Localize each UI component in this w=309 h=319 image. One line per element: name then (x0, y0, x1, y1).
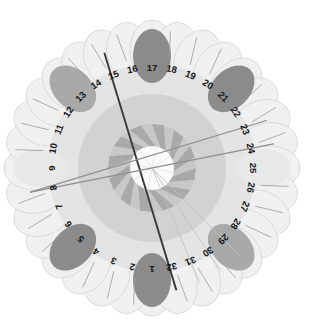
highlight-blob-9 (13, 149, 67, 187)
petal-label-18: 18 (165, 63, 178, 76)
petal-label-1: 1 (149, 264, 155, 275)
petal-label-32: 32 (165, 261, 178, 274)
highlight-blob-25 (237, 149, 291, 187)
radial-rose-diagram: 1234567891011121314151617181920212223242… (0, 0, 309, 319)
petal-label-16: 16 (126, 63, 139, 76)
petal-label-10: 10 (47, 142, 60, 155)
highlight-blob-1 (133, 253, 171, 307)
petal-label-17: 17 (147, 62, 158, 73)
petal-label-25: 25 (248, 163, 259, 174)
figure-canvas: 1234567891011121314151617181920212223242… (0, 0, 309, 319)
petal-label-9: 9 (46, 165, 57, 170)
highlight-blob-17 (133, 29, 171, 83)
petal-label-26: 26 (245, 181, 258, 194)
